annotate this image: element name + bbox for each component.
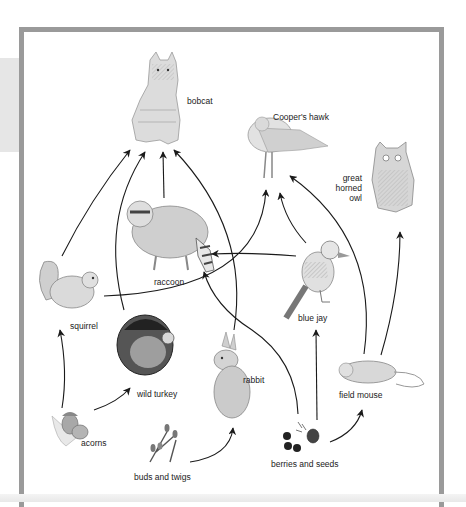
label-raccoon: raccoon [154,277,184,287]
arrow-acorns-to-squirrel [60,330,65,408]
label-field-mouse: field mouse [339,390,382,400]
great-horned-owl-illustration [372,142,414,212]
squirrel-illustration [39,261,98,308]
label-wild-turkey: wild turkey [137,389,177,399]
label-rabbit: rabbit [243,375,264,385]
label-berries-and-seeds: berries and seeds [271,459,339,469]
label-owl-line-1: great [330,173,362,183]
label-squirrel: squirrel [70,321,98,331]
arrow-bluejay-to-hawk [280,193,306,243]
label-bobcat: bobcat [187,96,213,106]
blue-jay-illustration [286,241,350,318]
arrow-bluejay-to-raccoon [212,253,296,256]
raccoon-illustration [127,201,214,272]
field-mouse-illustration [339,361,424,387]
arrow-buds-to-rabbit [190,428,233,462]
label-coopers-hawk: Cooper's hawk [273,112,329,122]
arrow-raccoon-to-bobcat [163,152,164,198]
wild-turkey-illustration [117,315,174,375]
bottom-strip [0,494,466,502]
label-buds-and-twigs: buds and twigs [134,472,191,482]
arrow-berries-to-bluejay [316,330,317,420]
arrow-acorns-to-turkey [94,388,130,410]
arrow-berries-to-fieldmouse [330,410,362,442]
buds-and-twigs-illustration [150,424,178,462]
label-acorns: acorns [81,438,107,448]
coopers-hawk-illustration [248,117,328,178]
label-owl-line-2: horned [330,183,362,193]
label-owl-line-3: owl [330,193,362,203]
berries-and-seeds-illustration [283,422,319,452]
label-blue-jay: blue jay [298,313,327,323]
label-great-horned-owl: great horned owl [330,173,362,203]
arrow-squirrel-to-bobcat [62,150,130,256]
bobcat-illustration [132,52,180,144]
arrow-fieldmouse-to-owl [381,232,400,355]
